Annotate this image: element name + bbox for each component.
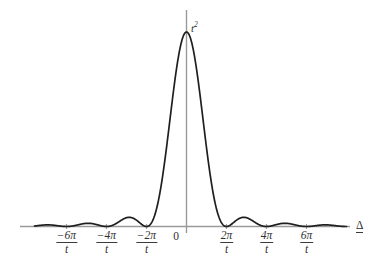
x-axis-tick-label: −4πt: [96, 230, 117, 257]
x-axis-label-delta: Δ: [356, 219, 363, 233]
fraction: 2πt: [220, 230, 234, 255]
x-axis-tick-label: 2πt: [220, 230, 234, 257]
fraction-numerator: 4π: [260, 230, 274, 243]
fraction-numerator: −6π: [56, 230, 77, 243]
fraction-numerator: −2π: [136, 230, 157, 243]
fraction: 4πt: [260, 230, 274, 255]
fraction-denominator: t: [300, 243, 314, 255]
data-curve-sinc-squared: [35, 32, 347, 226]
origin-tick-label: 0: [173, 230, 179, 242]
x-axis-tick-label: −6πt: [56, 230, 77, 257]
fraction-denominator: t: [96, 243, 117, 255]
fraction-denominator: t: [220, 243, 234, 255]
plot-canvas: [0, 0, 372, 262]
fraction: −6πt: [56, 230, 77, 255]
peak-label-exponent: 2: [194, 20, 198, 29]
fraction-numerator: 2π: [220, 230, 234, 243]
fraction-denominator: t: [56, 243, 77, 255]
x-axis-tick-label: −2πt: [136, 230, 157, 257]
fraction-numerator: −4π: [96, 230, 117, 243]
x-axis-tick-label: 6πt: [300, 230, 314, 257]
peak-value-label: t2: [191, 22, 198, 34]
fraction-denominator: t: [260, 243, 274, 255]
x-axis-tick-label: 4πt: [260, 230, 274, 257]
fraction: 6πt: [300, 230, 314, 255]
fraction-numerator: 6π: [300, 230, 314, 243]
fraction-denominator: t: [136, 243, 157, 255]
fraction: −4πt: [96, 230, 117, 255]
fraction: −2πt: [136, 230, 157, 255]
figure-sinc-squared-plot: t2 0 Δ −6πt−4πt−2πt2πt4πt6πt: [0, 0, 372, 262]
